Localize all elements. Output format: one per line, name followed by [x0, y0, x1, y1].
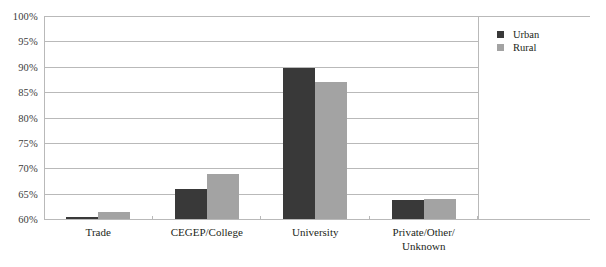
x-label-private-other-unknown: Private/Other/ Unknown [370, 226, 479, 253]
legend-item-rural: Rural [497, 41, 539, 54]
bar-private-other-unknown-rural [424, 199, 456, 219]
legend-label-rural: Rural [513, 42, 536, 53]
x-label-university: University [261, 226, 370, 253]
bar-cegep-college-urban [175, 189, 207, 219]
legend: Urban Rural [497, 28, 539, 54]
y-tick-label-70: 70% [18, 163, 38, 174]
bar-university-urban [283, 68, 315, 219]
y-tick-label-100: 100% [13, 11, 38, 22]
y-axis-tick-labels: 100% 95% 90% 85% 80% 75% 70% 65% 60% [0, 16, 38, 219]
y-tick-label-85: 85% [18, 87, 38, 98]
bar-group-cegep-college [153, 16, 262, 220]
x-label-trade-line1: Trade [86, 226, 111, 238]
bar-group-private-other-unknown [370, 16, 479, 220]
y-tick-label-75: 75% [18, 137, 38, 148]
x-label-private-other-unknown-line1: Private/Other/ [393, 226, 455, 238]
x-label-cegep-college-line1: CEGEP/College [171, 226, 243, 238]
rural-swatch-icon [497, 44, 504, 51]
legend-divider-line [478, 16, 479, 220]
bar-group-trade [44, 16, 153, 220]
y-tick-label-80: 80% [18, 112, 38, 123]
x-label-private-other-unknown-line2: Unknown [370, 240, 479, 254]
x-label-cegep-college: CEGEP/College [153, 226, 262, 253]
bar-groups [44, 16, 478, 220]
x-axis-category-labels: Trade CEGEP/College University Private/O… [44, 226, 478, 253]
bar-university-rural [315, 82, 347, 219]
y-tick-label-60: 60% [18, 214, 38, 225]
x-tick-private-other-unknown [477, 216, 478, 220]
x-label-trade: Trade [44, 226, 153, 253]
y-tick-label-65: 65% [18, 188, 38, 199]
bar-trade-urban [66, 217, 98, 219]
bar-cegep-college-rural [207, 174, 239, 219]
y-tick-label-90: 90% [18, 61, 38, 72]
urban-swatch-icon [497, 31, 504, 38]
legend-label-urban: Urban [513, 29, 539, 40]
legend-item-urban: Urban [497, 28, 539, 41]
x-label-university-line1: University [292, 226, 338, 238]
bar-private-other-unknown-urban [392, 200, 424, 219]
bar-chart: 100% 95% 90% 85% 80% 75% 70% 65% 60% [0, 0, 606, 267]
bar-group-university [261, 16, 370, 220]
y-tick-label-95: 95% [18, 36, 38, 47]
bar-trade-rural [98, 212, 130, 219]
